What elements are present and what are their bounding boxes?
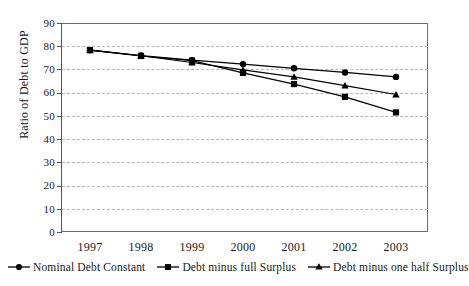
chart-legend: Nominal Debt Constant Debt minus full Su…: [8, 258, 447, 276]
triangle-marker-icon: [308, 261, 330, 273]
gridline-30: [62, 162, 428, 163]
circle-marker-icon: [8, 261, 30, 273]
gridline-60: [62, 93, 428, 94]
y-tick-label-90: 90: [15, 18, 55, 29]
y-tick-label-60: 60: [15, 87, 55, 98]
legend-label: Debt minus full Surplus: [182, 261, 296, 273]
gridline-80: [62, 46, 428, 47]
plot-area: [61, 23, 428, 232]
square-marker-icon: [157, 261, 179, 273]
x-tick-label-2003: 2003: [366, 240, 426, 255]
gridline-70: [62, 69, 428, 70]
gridline-40: [62, 139, 428, 140]
y-tick-label-20: 20: [15, 180, 55, 191]
y-tick-label-10: 10: [15, 204, 55, 215]
y-tick-label-80: 80: [15, 41, 55, 52]
gridline-10: [62, 209, 428, 210]
y-tick-label-0: 0: [15, 227, 55, 238]
legend-item-debt-minus-one-half-surplus[interactable]: Debt minus one half Surplus: [308, 261, 469, 273]
y-tick-label-70: 70: [15, 64, 55, 75]
legend-item-debt-minus-full-surplus[interactable]: Debt minus full Surplus: [157, 261, 296, 273]
y-tick-label-50: 50: [15, 111, 55, 122]
legend-label: Nominal Debt Constant: [33, 261, 145, 273]
gridline-50: [62, 116, 428, 117]
y-axis-line: [61, 23, 62, 233]
legend-item-nominal-debt-constant[interactable]: Nominal Debt Constant: [8, 261, 145, 273]
y-tick-label-30: 30: [15, 157, 55, 168]
y-tick-label-40: 40: [15, 134, 55, 145]
legend-label: Debt minus one half Surplus: [333, 261, 469, 273]
gridline-20: [62, 186, 428, 187]
